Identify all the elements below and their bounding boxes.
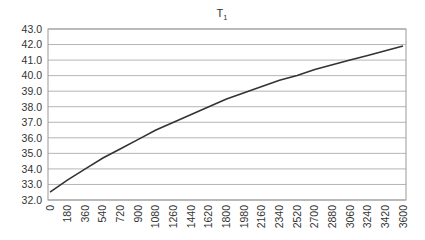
y-tick-label: 35.0 (22, 147, 43, 159)
y-tick-label: 33.0 (22, 178, 43, 190)
y-tick-label: 37.0 (22, 116, 43, 128)
y-tick-label: 40.0 (22, 69, 43, 81)
y-tick-label: 32.0 (22, 194, 43, 206)
x-axis-ticks: 0180360540720900108012601440162018001980… (44, 205, 409, 229)
y-tick-label: 43.0 (22, 23, 43, 35)
chart-title: T1 (217, 7, 228, 22)
x-tick-label: 1440 (185, 205, 197, 229)
series-line-t1 (50, 46, 403, 192)
line-chart: T1 32.033.034.035.036.037.038.039.040.04… (0, 0, 425, 240)
x-tick-label: 2520 (291, 205, 303, 229)
y-tick-label: 38.0 (22, 101, 43, 113)
x-tick-label: 0 (44, 205, 56, 211)
x-tick-label: 540 (96, 205, 108, 223)
y-axis-ticks: 32.033.034.035.036.037.038.039.040.041.0… (22, 23, 43, 206)
x-tick-label: 3240 (361, 205, 373, 229)
x-tick-label: 2160 (255, 205, 267, 229)
x-tick-label: 3600 (397, 205, 409, 229)
y-tick-label: 42.0 (22, 38, 43, 50)
x-tick-label: 3060 (344, 205, 356, 229)
y-tick-label: 39.0 (22, 85, 43, 97)
x-tick-label: 2880 (326, 205, 338, 229)
x-tick-label: 1080 (149, 205, 161, 229)
x-tick-label: 720 (114, 205, 126, 223)
gridlines (48, 29, 406, 200)
y-tick-label: 36.0 (22, 132, 43, 144)
x-tick-label: 1620 (202, 205, 214, 229)
x-tick-label: 3420 (379, 205, 391, 229)
x-tick-label: 2340 (273, 205, 285, 229)
plot-area-border (48, 29, 406, 200)
y-tick-label: 34.0 (22, 163, 43, 175)
x-tick-label: 360 (79, 205, 91, 223)
x-tick-label: 900 (132, 205, 144, 223)
x-tick-label: 1260 (167, 205, 179, 229)
x-tick-label: 180 (61, 205, 73, 223)
y-tick-label: 41.0 (22, 54, 43, 66)
x-tick-label: 1980 (238, 205, 250, 229)
x-tick-label: 1800 (220, 205, 232, 229)
x-tick-label: 2700 (308, 205, 320, 229)
